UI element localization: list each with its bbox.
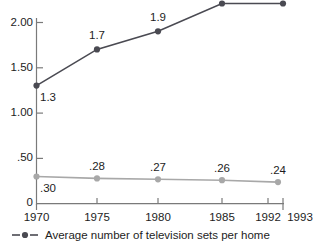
y-tick-label-0-50: .50 <box>17 151 33 163</box>
data-label-1970-upper: 1.3 <box>40 91 56 103</box>
chart-legend: Average number of television sets per ho… <box>12 229 270 241</box>
data-point-1970-lower <box>33 173 39 179</box>
x-tick-label-1975: 1975 <box>84 211 110 223</box>
series-television-sets: 1.3 1.7 1.9 2.2 2.2 <box>33 0 291 103</box>
data-point-1975-lower <box>94 175 100 181</box>
x-axis: 1970 1975 1980 1985 1992 1993 <box>24 198 313 223</box>
data-point-1970-upper <box>33 83 39 89</box>
data-point-1992-upper <box>280 0 286 6</box>
y-tick-label-1-00: 1.00 <box>11 106 33 118</box>
x-tick-label-1970: 1970 <box>24 211 50 223</box>
legend-label-television-sets: Average number of television sets per ho… <box>45 229 270 241</box>
data-label-1975-lower: .28 <box>89 160 105 172</box>
x-tick-label-1980: 1980 <box>145 211 171 223</box>
data-point-1985-upper <box>219 0 225 6</box>
y-tick-label-2-00: 2.00 <box>11 16 33 28</box>
data-point-1992-lower <box>275 179 281 185</box>
data-label-1985-lower: .26 <box>214 162 230 174</box>
y-tick-label-1-50: 1.50 <box>11 61 33 73</box>
y-tick-label-0: 0 <box>27 196 33 208</box>
legend-dot-icon <box>22 232 28 238</box>
data-point-1985-lower <box>219 177 225 183</box>
data-point-1980-upper <box>155 28 161 34</box>
x-tick-label-1992: 1992 <box>255 211 281 223</box>
data-point-1980-lower <box>155 176 161 182</box>
data-label-1980-lower: .27 <box>150 161 166 173</box>
x-tick-label-1985: 1985 <box>209 211 235 223</box>
series-lower: .30 .28 .27 .26 .24 <box>33 160 286 194</box>
x-tick-labels: 1970 1975 1980 1985 1992 1993 <box>24 211 313 223</box>
data-point-1975-upper <box>94 46 100 52</box>
legend-marker-dash-dot-dash <box>12 232 38 238</box>
data-label-1992-lower: .24 <box>270 164 287 176</box>
line-chart: 2.00 1.50 1.00 .50 0 1 <box>0 0 319 245</box>
data-label-1970-lower: .30 <box>40 182 56 194</box>
data-label-1975-upper: 1.7 <box>89 29 105 41</box>
chart-container: 2.00 1.50 1.00 .50 0 1 <box>0 0 319 245</box>
data-label-1980-upper: 1.9 <box>150 11 166 23</box>
x-tick-label-1993: 1993 <box>287 211 313 223</box>
